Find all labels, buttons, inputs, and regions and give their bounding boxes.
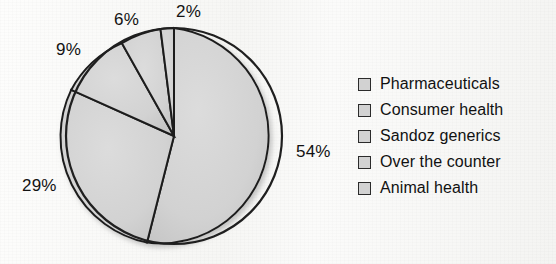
pie-label-animal-health: 2% <box>176 2 201 22</box>
pie-label-over-the-counter: 6% <box>114 10 139 30</box>
pie-label-consumer-health: 29% <box>22 176 57 196</box>
legend-item-label: Sandoz generics <box>380 127 501 145</box>
legend-item-sandoz-generics[interactable]: Sandoz generics <box>358 126 503 146</box>
pie-graphic <box>0 0 340 264</box>
legend-swatch-icon <box>358 104 371 117</box>
pie-slices-group <box>61 28 269 243</box>
legend-item-pharmaceuticals[interactable]: Pharmaceuticals <box>358 74 503 94</box>
pie-label-sandoz-generics: 9% <box>56 40 81 60</box>
legend-item-label: Pharmaceuticals <box>380 75 500 93</box>
legend-item-label: Animal health <box>380 179 478 197</box>
legend-item-consumer-health[interactable]: Consumer health <box>358 100 503 120</box>
legend-item-animal-health[interactable]: Animal health <box>358 178 503 198</box>
legend-item-over-the-counter[interactable]: Over the counter <box>358 152 503 172</box>
pie-chart-figure: 54% 29% 9% 6% 2% Pharmaceuticals Consume… <box>0 0 556 264</box>
legend-swatch-icon <box>358 182 371 195</box>
legend-swatch-icon <box>358 130 371 143</box>
legend-item-label: Over the counter <box>380 153 501 171</box>
legend-item-label: Consumer health <box>380 101 503 119</box>
pie-label-pharmaceuticals: 54% <box>296 142 331 162</box>
chart-legend: Pharmaceuticals Consumer health Sandoz g… <box>358 74 503 198</box>
legend-swatch-icon <box>358 78 371 91</box>
legend-swatch-icon <box>358 156 371 169</box>
